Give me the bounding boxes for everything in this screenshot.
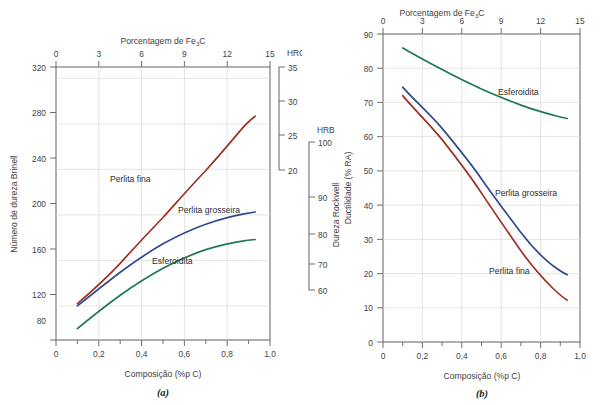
panel-a-top-tick-0: 0 [54, 49, 59, 59]
panel-a-y-tick-240: 240 [32, 154, 46, 164]
panel-a-y-tick-280: 280 [32, 108, 46, 118]
panel-a-bottom-tick-08: 0,8 [221, 349, 233, 359]
chart-panel-b: Porcentagem de Fe3C [302, 0, 604, 405]
panel-b-y-tick-80: 80 [364, 64, 374, 74]
panel-b-bottom-tick-08: 0,8 [535, 351, 547, 361]
panel-a-bottom-tick-06: 0,6 [179, 349, 191, 359]
panel-b-top-tick-9: 9 [499, 16, 504, 26]
panel-b-y-axis-title: Ductilidade (% RA) [343, 152, 353, 225]
panel-a-top-tick-3: 3 [96, 49, 101, 59]
panel-b-bottom-tick-02: 0,2 [417, 351, 429, 361]
panel-a-y-tick-320: 320 [32, 63, 46, 73]
panel-b-bottom-tick-0: 0 [381, 351, 386, 361]
panel-b-left-ticks: 90 80 70 60 50 40 30 20 10 0 [364, 30, 383, 348]
panel-b-bottom-axis-title: Composição (%p C) [444, 371, 521, 381]
panel-a-top-ticks: 0 3 6 9 12 15 [54, 49, 275, 67]
chart-a-svg: Porcentagem de Fe3C [0, 0, 302, 405]
panel-b-tag: (b) [476, 388, 488, 400]
panel-b-y-tick-20: 20 [364, 269, 374, 279]
panel-a-y-tick-120: 120 [32, 290, 46, 300]
panel-b-top-tick-15: 15 [575, 16, 585, 26]
panel-a-top-tick-9: 9 [182, 49, 187, 59]
panel-b-top-axis-title: Porcentagem de Fe3C [399, 8, 484, 19]
panel-b-bottom-ticks: 0 0,2 0,4 0,6 0,8 1,0 [381, 342, 586, 361]
panel-a-y-axis-title: Número de dureza Brinell [9, 155, 19, 253]
panel-a-bottom-ticks: 0 0,2 0,4 0,6 0,8 1,0 [54, 340, 276, 359]
panel-a-y-tick-160: 160 [32, 245, 46, 255]
chart-b-svg: Porcentagem de Fe3C [302, 0, 604, 405]
panel-a-tag: (a) [157, 387, 169, 399]
panel-a-top-tick-15: 15 [265, 49, 275, 59]
panel-b-y-tick-50: 50 [364, 166, 374, 176]
panel-a-top-tick-12: 12 [223, 49, 233, 59]
panel-b-y-tick-40: 40 [364, 201, 374, 211]
panel-a-y-tick-80: 80 [37, 316, 47, 326]
panel-a-top-tick-6: 6 [139, 49, 144, 59]
panel-a-bottom-tick-04: 0,4 [136, 349, 148, 359]
panel-b-y-tick-0: 0 [368, 338, 373, 348]
panel-b-y-tick-30: 30 [364, 235, 374, 245]
panel-b-top-ticks: 0 3 6 9 12 15 [381, 16, 585, 34]
panel-b-top-tick-12: 12 [536, 16, 546, 26]
panel-a-left-ticks: 320 280 240 200 160 120 80 [32, 63, 56, 341]
panel-b-bottom-tick-06: 0,6 [495, 351, 507, 361]
panel-a-plot-frame [56, 67, 270, 340]
panel-b-top-tick-0: 0 [381, 16, 386, 26]
panel-b-y-tick-60: 60 [364, 132, 374, 142]
panel-a-y-tick-200: 200 [32, 199, 46, 209]
panel-b-bottom-tick-10: 1,0 [574, 351, 586, 361]
panel-b-y-tick-10: 10 [364, 303, 374, 313]
panel-b-y-tick-90: 90 [364, 30, 374, 40]
panel-a-bottom-tick-0: 0 [54, 349, 59, 359]
panel-b-plot-frame [383, 34, 580, 342]
panel-a-bottom-tick-10: 1,0 [264, 349, 276, 359]
panel-b-top-tick-3: 3 [420, 16, 425, 26]
panel-b-bottom-tick-04: 0,4 [456, 351, 468, 361]
panel-a-top-axis-title: Porcentagem de Fe3C [120, 36, 205, 47]
panel-a-bottom-tick-02: 0,2 [93, 349, 105, 359]
panel-b-y-tick-70: 70 [364, 98, 374, 108]
panel-a-bottom-axis-title: Composição (%p C) [125, 369, 202, 379]
panel-b-top-tick-6: 6 [459, 16, 464, 26]
figure-container: Porcentagem de Fe3C [0, 0, 604, 405]
chart-panel-a: Porcentagem de Fe3C [0, 0, 302, 405]
